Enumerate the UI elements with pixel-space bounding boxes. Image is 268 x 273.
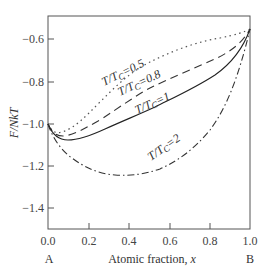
x-tick-label: 1.0 (243, 234, 258, 248)
y-tick-label: −1.0 (22, 117, 44, 131)
x-axis-ticks (89, 223, 210, 229)
y-axis-tick-labels: −0.6 −0.8 −1.0 −1.2 −1.4 (22, 32, 44, 215)
x-tick-label: 0.2 (82, 234, 97, 248)
x-tick-label: 0.8 (203, 234, 218, 248)
y-tick-label: −0.6 (22, 32, 44, 46)
y-axis-label: F/NkT (7, 106, 21, 139)
y-tick-label: −1.4 (22, 201, 44, 215)
y-tick-label: −1.2 (22, 159, 44, 173)
x-tick-label: 0.6 (163, 234, 178, 248)
label-t-2: T/TC=2 (145, 131, 184, 164)
plot-frame (48, 16, 250, 229)
y-tick-label: −0.8 (22, 75, 44, 89)
x-axis-tick-labels: 0.0 0.2 0.4 0.6 0.8 1.0 (41, 234, 258, 248)
x-axis-label: Atomic fraction, x (108, 252, 196, 266)
x-tick-label: 0.0 (41, 234, 56, 248)
y-axis-ticks (48, 39, 54, 208)
x-left-end-label: A (45, 252, 54, 266)
x-tick-label: 0.4 (122, 234, 137, 248)
x-right-end-label: B (246, 252, 254, 266)
label-t-1: T/TC=1 (133, 89, 173, 118)
phase-free-energy-chart: −0.6 −0.8 −1.0 −1.2 −1.4 0.0 0.2 0.4 0.6… (0, 0, 268, 273)
